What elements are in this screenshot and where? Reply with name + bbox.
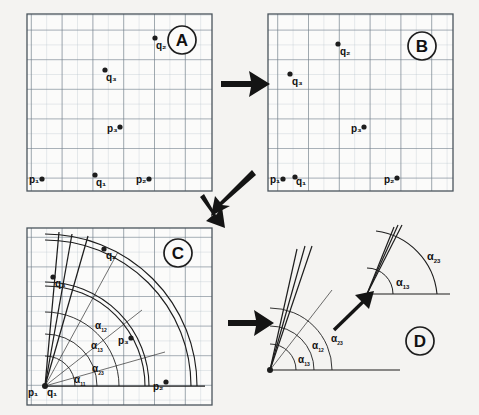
point-label-p3: p₃ xyxy=(118,335,129,346)
panel-a-badge: A xyxy=(168,26,196,54)
point-p2 xyxy=(394,175,399,180)
panel-c-badge: C xyxy=(164,239,192,267)
point-label-p2: p₂ xyxy=(384,174,395,185)
figure-root: p₁ p₂ p₃ q₁ q₂ q₃ A p₁ xyxy=(0,0,479,415)
point-label-p2: p₂ xyxy=(153,381,164,392)
point-label-p1: p₁ xyxy=(28,387,38,398)
panel-b-badge-letter: B xyxy=(416,37,428,56)
panel-a: p₁ p₂ p₃ q₁ q₂ q₃ A xyxy=(27,14,212,191)
point-label-q1: q₁ xyxy=(296,176,306,187)
point-label-p2: p₂ xyxy=(136,174,147,185)
point-p3 xyxy=(361,124,366,129)
point-label-q3: q₃ xyxy=(292,76,303,87)
point-p2 xyxy=(146,176,151,181)
panel-a-badge-letter: A xyxy=(176,31,188,50)
point-label-p1: p₁ xyxy=(270,174,280,185)
point-label-p1: p₁ xyxy=(29,174,39,185)
point-p3 xyxy=(128,335,133,340)
point-p3 xyxy=(117,124,122,129)
panel-c-badge-letter: C xyxy=(172,244,184,263)
panel-d-badge: D xyxy=(406,327,434,355)
point-p1 xyxy=(39,176,44,181)
point-label-p3: p₃ xyxy=(107,123,118,134)
point-label-q3: q₃ xyxy=(55,278,66,289)
point-label-q2: q₂ xyxy=(106,250,117,261)
point-label-q1: q₁ xyxy=(47,387,57,398)
point-label-q1: q₁ xyxy=(96,177,106,188)
panel-d-badge-letter: D xyxy=(414,332,426,351)
point-label-q3: q₃ xyxy=(106,72,117,83)
panel-b: p₁ p₂ p₃ q₁ q₂ q₃ B xyxy=(268,14,453,191)
panel-b-badge: B xyxy=(408,32,436,60)
panel-c: p₁ q₁ p₂ p₃ q₂ q₃ α12 α13 α23 α11 xyxy=(27,228,212,405)
point-label-q2: q₂ xyxy=(340,46,351,57)
point-p2 xyxy=(163,379,168,384)
point-p1 xyxy=(280,176,285,181)
point-label-q2: q₂ xyxy=(156,40,167,51)
point-label-p3: p₃ xyxy=(351,123,362,134)
